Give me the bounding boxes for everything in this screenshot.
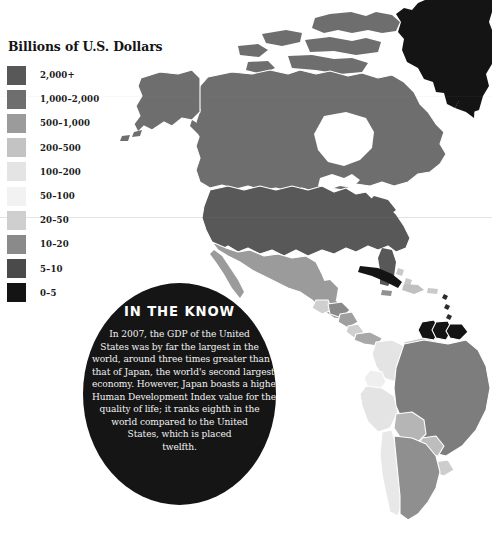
legend-item-10-20: 10–20 [7,232,157,256]
legend-swatch [7,138,26,157]
legend-item-100-200: 100–200 [7,160,157,184]
itk-line-4: that of Japan, the world's second larges… [92,366,267,379]
itk-line-1: In 2007, the GDP of the United [92,328,267,341]
itk-line-7: quality of life; it ranks eighth in the [92,403,267,416]
legend-label: 5–10 [40,264,63,274]
region-puerto-rico [427,288,438,294]
legend-label: 50–100 [40,191,75,201]
legend-item-5-10: 5–10 [7,257,157,281]
legend-label: 1,000–2,000 [40,94,99,104]
legend-label: 10–20 [40,239,69,249]
legend-item-2000-plus: 2,000+ [7,63,157,87]
legend-label: 200–500 [40,143,81,153]
itk-line-8: world compared to the United [92,416,267,429]
legend-item-1000-2000: 1,000–2,000 [7,87,157,111]
itk-line-10: twelfth. [92,441,267,454]
legend-label: 2,000+ [40,70,75,80]
itk-line-6: Human Development Index value for the [92,391,267,404]
legend-item-20-50: 20–50 [7,208,157,232]
legend-item-500-1000: 500–1,000 [7,111,157,135]
map-legend: Billions of U.S. Dollars 2,000+ 1,000–2,… [7,39,157,305]
in-the-know-heading: IN THE KNOW [92,304,267,319]
itk-line-5: economy. However, Japan boasts a higher [92,378,267,391]
legend-swatch [7,235,26,254]
legend-swatch [7,114,26,133]
in-the-know-content: IN THE KNOW In 2007, the GDP of the Unit… [83,283,276,505]
legend-label: 0–5 [40,288,57,298]
legend-swatch [7,259,26,278]
itk-line-3: world, around three times greater than [92,353,267,366]
legend-swatch [7,187,26,206]
legend-swatch [7,66,26,85]
region-jamaica [381,290,392,296]
legend-label: 500–1,000 [40,118,90,128]
legend-item-200-500: 200–500 [7,136,157,160]
itk-line-2: States was by far the largest in the [92,341,267,354]
legend-item-50-100: 50–100 [7,184,157,208]
legend-swatch [7,90,26,109]
in-the-know-callout: IN THE KNOW In 2007, the GDP of the Unit… [83,283,276,505]
legend-swatch [7,283,26,302]
legend-swatch [7,211,26,230]
legend-swatch [7,162,26,181]
legend-label: 100–200 [40,167,81,177]
page-left-margin [0,0,4,533]
itk-line-9: States, which is placed [92,428,267,441]
page-root: GDP remains a useful, if narrow, yardsti… [0,0,492,533]
page-bottom-margin [0,520,492,533]
legend-label: 20–50 [40,215,69,225]
legend-title: Billions of U.S. Dollars [8,39,157,54]
in-the-know-body: In 2007, the GDP of the United States wa… [92,328,267,453]
